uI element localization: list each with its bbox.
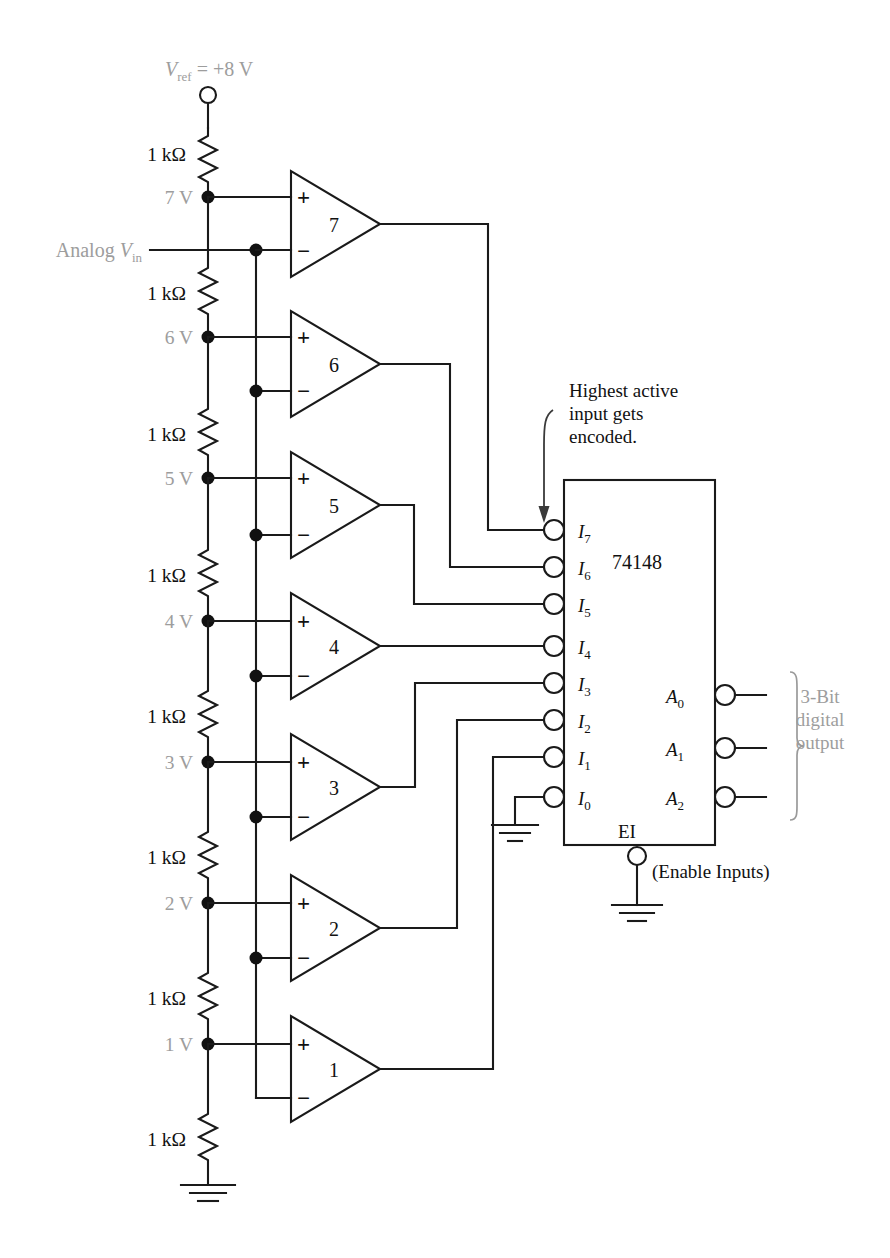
schematic-page: + − 7 + − 6 + − 5 + − 4 <box>0 0 890 1258</box>
label-analog-vin: Analog Vin <box>56 239 143 265</box>
comparator-7[interactable]: + − 7 <box>208 171 380 277</box>
cmp5-plus-sign: + <box>297 466 310 491</box>
resistor-r3 <box>199 762 217 903</box>
label-tap1: 1 V <box>165 1034 193 1055</box>
node-vin-cmp6 <box>250 385 263 398</box>
cmp1-plus-sign: + <box>297 1032 310 1057</box>
note-output-line3: output <box>796 732 845 753</box>
cmp2-label: 2 <box>329 918 339 940</box>
pin-i1[interactable] <box>544 747 564 767</box>
chip-enable-caption: (Enable Inputs) <box>652 861 770 883</box>
pin-label-i4: I4 <box>577 637 591 662</box>
label-tap7: 7 V <box>165 187 193 208</box>
node-vin-cmp4 <box>250 670 263 683</box>
label-r1: 1 kΩ <box>147 1129 186 1150</box>
label-vref: Vref = +8 V <box>165 58 254 84</box>
label-r3: 1 kΩ <box>147 847 186 868</box>
cmp7-label: 7 <box>329 214 339 236</box>
pin-ei[interactable] <box>628 847 646 865</box>
cmp3-label: 3 <box>329 777 339 799</box>
cmp6-output-route <box>380 364 544 567</box>
resistor-r7 <box>199 197 217 337</box>
cmp4-label: 4 <box>329 636 339 658</box>
label-tap5: 5 V <box>165 468 193 489</box>
resistor-r4 <box>199 621 217 762</box>
ground-ei <box>612 905 662 921</box>
cmp5-label: 5 <box>329 495 339 517</box>
cmp6-minus-sign: − <box>297 379 310 404</box>
pin-label-i5: I5 <box>577 595 591 620</box>
pin-label-a1: A1 <box>664 739 684 764</box>
label-r5: 1 kΩ <box>147 565 186 586</box>
comparator-1[interactable]: + − 1 <box>208 1016 380 1122</box>
label-r7: 1 kΩ <box>147 283 186 304</box>
vref-terminal[interactable] <box>200 87 216 103</box>
pin-label-a2: A2 <box>664 788 684 813</box>
label-r2: 1 kΩ <box>147 988 186 1009</box>
chip-enable-label: EI <box>618 821 636 842</box>
note-encoded-line2: input gets <box>569 403 643 424</box>
resistor-r5 <box>199 478 217 621</box>
cmp7-plus-sign: + <box>297 185 310 210</box>
ground-i0 <box>492 825 538 841</box>
label-tap2: 2 V <box>165 893 193 914</box>
pin-label-a0: A0 <box>664 686 684 711</box>
cmp1-label: 1 <box>329 1059 339 1081</box>
pin-label-i6: I6 <box>577 558 591 583</box>
i0-ground-wire <box>515 797 544 825</box>
cmp6-plus-sign: + <box>297 325 310 350</box>
label-r6: 1 kΩ <box>147 424 186 445</box>
resistor-r2 <box>199 903 217 1044</box>
resistor-r6 <box>199 337 217 478</box>
node-vin-cmp2 <box>250 952 263 965</box>
comparator-5[interactable]: + − 5 <box>208 452 380 558</box>
cmp5-output-route <box>380 505 544 604</box>
pin-label-i0: I0 <box>577 788 591 813</box>
cmp1-output-route <box>380 757 544 1069</box>
pin-i5[interactable] <box>544 594 564 614</box>
pin-i6[interactable] <box>544 557 564 577</box>
cmp3-minus-sign: − <box>297 805 310 830</box>
comparator-2[interactable]: + − 2 <box>208 875 380 981</box>
comparator-3[interactable]: + − 3 <box>208 734 380 840</box>
label-tap3: 3 V <box>165 752 193 773</box>
arrowhead-encoded <box>539 506 550 523</box>
pin-label-i1: I1 <box>577 748 591 773</box>
label-r8: 1 kΩ <box>147 144 186 165</box>
pin-i2[interactable] <box>544 710 564 730</box>
node-vin-cmp3 <box>250 811 263 824</box>
label-tap4: 4 V <box>165 611 193 632</box>
comparator-4[interactable]: + − 4 <box>208 593 380 699</box>
pin-label-i3: I3 <box>577 674 591 699</box>
cmp1-minus-sign: − <box>297 1086 310 1111</box>
cmp3-output-route <box>380 683 544 787</box>
cmp7-output-route <box>380 224 544 530</box>
note-output-line1: 3-Bit <box>800 686 840 707</box>
pin-a2[interactable] <box>715 787 735 807</box>
pin-i3[interactable] <box>544 673 564 693</box>
cmp7-minus-sign: − <box>297 239 310 264</box>
circuit-diagram: + − 7 + − 6 + − 5 + − 4 <box>0 0 890 1258</box>
pin-i4[interactable] <box>544 636 564 656</box>
node-vin-cmp5 <box>250 529 263 542</box>
cmp3-plus-sign: + <box>297 750 310 775</box>
cmp5-minus-sign: − <box>297 523 310 548</box>
note-encoded-line3: encoded. <box>569 426 637 447</box>
label-tap6: 6 V <box>165 327 193 348</box>
pin-a1[interactable] <box>715 738 735 758</box>
resistor-r1 <box>199 1044 217 1185</box>
label-r4: 1 kΩ <box>147 706 186 727</box>
pin-i0[interactable] <box>544 787 564 807</box>
note-output-line2: digital <box>796 709 845 730</box>
pin-i7[interactable] <box>544 520 564 540</box>
note-encoded-arrow <box>539 410 554 523</box>
comparator-6[interactable]: + − 6 <box>208 311 380 417</box>
pin-a0[interactable] <box>715 685 735 705</box>
chip-part-number: 74148 <box>612 551 662 573</box>
cmp4-plus-sign: + <box>297 609 310 634</box>
cmp2-minus-sign: − <box>297 946 310 971</box>
cmp6-label: 6 <box>329 354 339 376</box>
cmp4-minus-sign: − <box>297 664 310 689</box>
chip-input-pins: I7 I6 I5 I4 I3 I2 I1 I0 <box>544 520 591 813</box>
resistor-r8 <box>199 128 217 197</box>
